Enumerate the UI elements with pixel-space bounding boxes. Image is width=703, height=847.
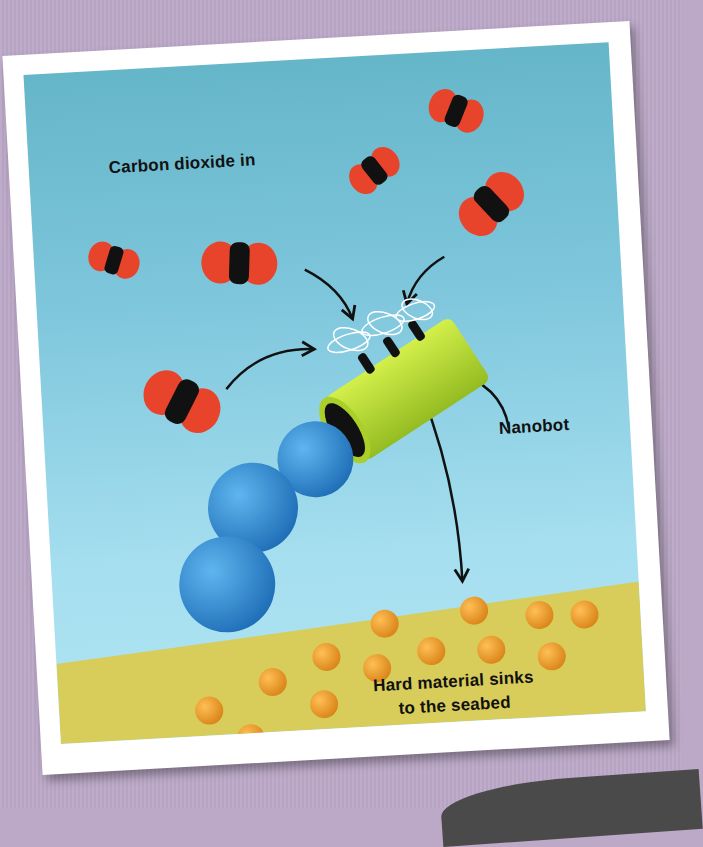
co2-molecule xyxy=(201,241,278,285)
diagram-card: Carbon dioxide in Nanobot Hard material … xyxy=(2,21,669,775)
co2-molecule xyxy=(136,363,228,440)
co2-molecule xyxy=(424,85,489,137)
arrow xyxy=(305,267,353,321)
diagram-scene xyxy=(23,42,645,744)
label-nanobot: Nanobot xyxy=(498,415,569,439)
co2-molecule xyxy=(85,238,143,282)
diagram-panel: Carbon dioxide in Nanobot Hard material … xyxy=(23,42,645,744)
co2-molecule xyxy=(343,141,405,200)
arrow xyxy=(224,349,316,390)
arrow xyxy=(404,257,446,304)
label-hard-material: Hard material sinks to the seabed xyxy=(372,665,535,722)
co2-molecule xyxy=(451,164,532,244)
